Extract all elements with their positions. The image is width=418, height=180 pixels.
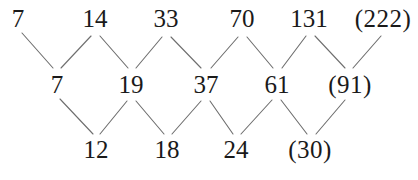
value-second-differences-0: 12 [84,137,109,162]
value-sequence-1: 14 [83,6,108,31]
value-sequence-4: 131 [290,6,328,31]
connector-bottom-4 [210,101,233,134]
connector-top-6 [247,37,273,68]
connector-bottom-1 [100,101,127,134]
connector-top-9 [353,36,381,68]
value-second-differences-2: 24 [224,137,249,162]
connector-bottom-2 [136,101,164,134]
value-sequence-3: 70 [230,6,255,31]
zigzag-lines-bottom-row [60,99,345,134]
value-first-differences-4: (91) [328,72,372,97]
value-sequence-5: (222) [355,6,412,31]
connector-top-5 [211,37,238,68]
connector-bottom-0 [60,99,93,134]
connector-top-4 [171,37,201,68]
value-first-differences-2: 37 [194,72,219,97]
difference-table-figure: 7143370131(222)7193761(91)121824(30) [0,0,418,180]
zigzag-lines-top-row [22,33,381,68]
connector-top-3 [136,37,162,68]
value-sequence-2: 33 [154,6,179,31]
connector-top-2 [100,36,128,68]
value-first-differences-3: 61 [265,72,290,97]
connector-bottom-6 [281,100,307,134]
connector-bottom-7 [316,100,345,134]
connector-bottom-5 [241,100,272,134]
connector-top-7 [282,36,306,68]
value-first-differences-1: 19 [119,72,144,97]
connector-top-1 [61,36,91,68]
connector-top-0 [22,33,53,68]
value-second-differences-3: (30) [288,137,332,162]
value-second-differences-1: 18 [155,137,180,162]
connector-bottom-3 [172,101,201,134]
connector-top-8 [315,36,345,68]
value-first-differences-0: 7 [51,72,64,97]
value-sequence-0: 7 [12,6,25,31]
